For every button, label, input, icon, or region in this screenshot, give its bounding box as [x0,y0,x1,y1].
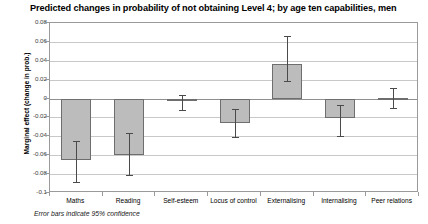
error-bar-line [129,133,130,176]
y-tick-label: 0 [19,95,47,101]
error-bar-line [287,36,288,80]
error-bar-line [76,141,77,182]
gridline [50,80,417,81]
y-tick-label: -0.1 [19,189,47,195]
error-bar-line [182,95,183,110]
error-bar-cap-upper [337,105,344,106]
y-tick-label: -0.04 [19,132,47,138]
chart-title: Predicted changes in probability of not … [30,3,426,14]
x-axis-label: Internalising [313,197,366,205]
x-axis-label: Locus of control [207,197,260,205]
x-tick-mark [207,192,208,196]
x-tick-mark [49,192,50,196]
chart-container: Predicted changes in probability of not … [0,0,428,224]
error-bar-line [340,105,341,136]
error-bar-note: Error bars indicate 95% confidence [34,210,140,217]
error-bar-cap-upper [232,109,239,110]
gridline [50,42,417,43]
error-bar-cap-upper [284,36,291,37]
x-axis-label: Maths [49,197,102,205]
x-axis-label: Peer relations [365,197,418,205]
error-bar-cap-lower [390,108,397,109]
x-tick-mark [313,192,314,196]
y-tick-label: -0.02 [19,113,47,119]
y-tick-label: 0.08 [19,19,47,25]
error-bar-line [393,88,394,108]
plot-area [49,22,418,192]
gridline [50,174,417,175]
error-bar-line [235,109,236,137]
x-tick-mark [418,192,419,196]
y-tick-label: -0.08 [19,170,47,176]
error-bar-cap-lower [126,175,133,176]
y-tick-label: 0.02 [19,76,47,82]
x-axis-label: Self-esteem [154,197,207,205]
x-tick-mark [154,192,155,196]
error-bar-cap-lower [179,110,186,111]
error-bar-cap-lower [284,81,291,82]
error-bar-cap-upper [73,141,80,142]
x-tick-mark [260,192,261,196]
x-axis-label: Externalising [260,197,313,205]
y-tick-label: 0.04 [19,57,47,63]
error-bar-cap-lower [73,182,80,183]
gridline [50,61,417,62]
error-bar-cap-lower [337,136,344,137]
gridline [50,155,417,156]
y-tick-label: -0.06 [19,151,47,157]
x-tick-mark [102,192,103,196]
x-axis-label: Reading [102,197,155,205]
error-bar-cap-upper [126,133,133,134]
error-bar-cap-upper [390,88,397,89]
error-bar-cap-upper [179,95,186,96]
error-bar-cap-lower [232,137,239,138]
y-tick-label: 0.06 [19,38,47,44]
x-tick-mark [365,192,366,196]
